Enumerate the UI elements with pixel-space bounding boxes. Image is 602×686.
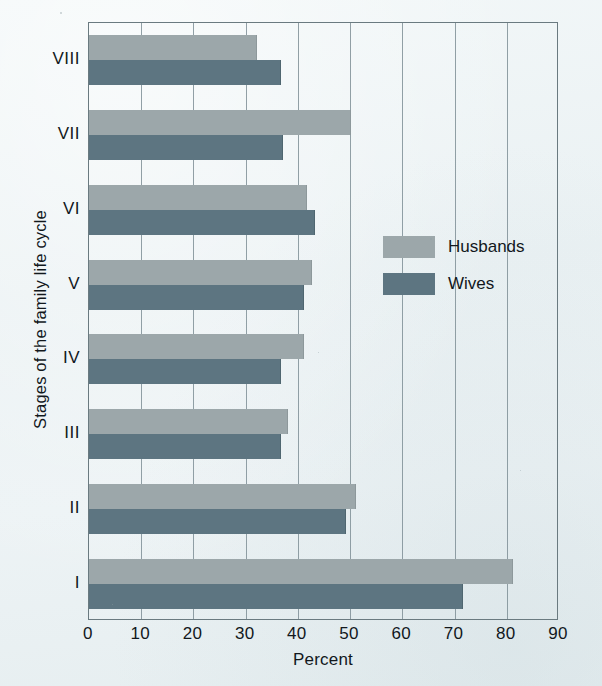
legend-label-husbands: Husbands (448, 237, 525, 257)
legend-swatch-icon (383, 236, 435, 258)
scan-speck (60, 12, 62, 14)
legend-item-wives: Wives (383, 269, 525, 299)
y-axis-tick-labels: IIIIIIIVVVIVIIVIII (0, 0, 602, 686)
legend-swatch-icon (383, 273, 435, 295)
scan-speck (520, 470, 521, 471)
chart-legend: HusbandsWives (383, 232, 525, 306)
scan-speck (112, 604, 113, 605)
bar-chart-figure: 0102030405060708090 IIIIIIIVVVIVIIVIII P… (0, 0, 602, 686)
scan-speck (430, 238, 432, 240)
y-tick-label-II: II (0, 498, 92, 518)
legend-item-husbands: Husbands (383, 232, 525, 262)
y-tick-label-VIII: VIII (0, 49, 92, 69)
scan-speck (318, 352, 319, 353)
y-axis-title: Stages of the family life cycle (31, 185, 50, 455)
y-tick-label-I: I (0, 573, 92, 593)
legend-label-wives: Wives (448, 274, 494, 294)
x-axis-title: Percent (88, 650, 558, 670)
y-tick-label-VII: VII (0, 124, 92, 144)
